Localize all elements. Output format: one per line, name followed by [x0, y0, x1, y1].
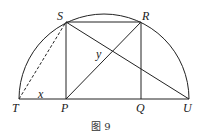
angle-label-x: x — [37, 87, 44, 101]
figure-caption: 图 9 — [91, 121, 111, 132]
label-q: Q — [136, 101, 145, 115]
label-s: S — [57, 9, 63, 23]
geometry-figure: S R T P Q U x y 图 9 — [0, 0, 203, 135]
semicircle-arc — [19, 14, 189, 99]
label-u: U — [183, 101, 193, 115]
label-p: P — [60, 101, 69, 115]
label-r: R — [141, 9, 150, 23]
label-t: T — [12, 101, 20, 115]
segment-pr — [66, 22, 141, 99]
segment-su — [66, 22, 189, 99]
angle-label-y: y — [95, 47, 102, 61]
